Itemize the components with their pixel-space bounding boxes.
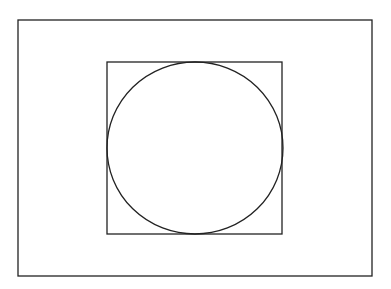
inner-square bbox=[107, 62, 282, 234]
outer-rectangle bbox=[18, 20, 372, 276]
inscribed-circle bbox=[107, 62, 283, 234]
diagram-canvas bbox=[0, 0, 391, 289]
